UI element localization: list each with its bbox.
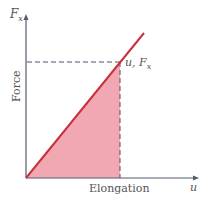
y-symbol-sub: x xyxy=(18,14,23,23)
force-elongation-diagram xyxy=(0,0,212,203)
point-label-u: u, xyxy=(125,56,136,69)
point-label-sub: x xyxy=(147,62,152,71)
point-label-F: F xyxy=(139,56,147,69)
x-axis-arrow-icon xyxy=(193,176,199,181)
y-axis-label: Force xyxy=(10,70,23,102)
x-axis-label: Elongation xyxy=(89,183,150,194)
y-axis-symbol: Fx xyxy=(10,8,23,23)
y-axis-arrow-icon xyxy=(24,14,29,20)
x-axis-symbol: u xyxy=(190,182,197,193)
point-label: u, Fx xyxy=(125,57,151,71)
